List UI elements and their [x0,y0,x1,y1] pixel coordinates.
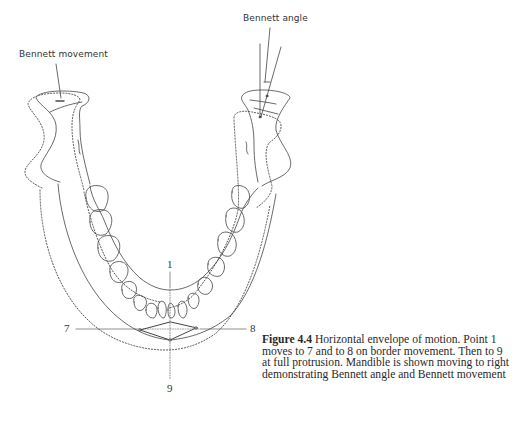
bennett-angle-label: Bennett angle [243,13,308,23]
point-9-label: 9 [167,382,173,394]
envelope-of-motion [76,272,246,380]
point-1-label: 1 [167,258,173,270]
bennett-movement-label: Bennett movement [19,49,108,59]
teeth [86,185,250,318]
point-8-label: 8 [250,322,256,334]
mandible-dotted-outline [25,93,281,350]
bennett-angle-lines [259,28,281,118]
figure-caption: Figure 4.4 Horizontal envelope of motion… [262,334,512,380]
bennett-movement-leader [56,64,64,101]
point-7-label: 7 [64,322,70,334]
mandible-solid-outline [36,90,291,340]
